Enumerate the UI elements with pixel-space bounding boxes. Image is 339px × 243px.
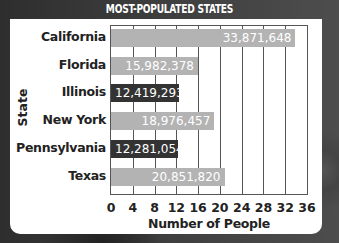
category-label: California [41,29,106,44]
bar-value-label: 15,982,378 [125,59,194,73]
x-tick-label: 20 [211,200,228,215]
x-tick-label: 16 [189,200,206,215]
x-axis-label: Number of People [110,216,308,231]
gridline [263,26,264,194]
category-label: Texas [68,168,106,183]
bar-illinois: 12,419,293 [111,84,179,102]
category-label: Illinois [62,84,106,99]
gridline [285,26,286,194]
bar-value-label: 18,976,457 [142,114,211,128]
y-axis-label: State [15,88,30,128]
bar-california: 33,871,648 [111,29,295,47]
x-tick-label: 36 [298,200,315,215]
bar-value-label: 12,419,293 [115,86,184,100]
x-tick-label: 28 [255,200,272,215]
bar-value-label: 12,281,054 [115,142,184,156]
category-label: New York [43,112,106,127]
x-tick-label: 12 [168,200,185,215]
bar-pennsylvania: 12,281,054 [111,140,178,158]
chart-title: MOST-POPULATED STATES [20,0,318,19]
category-label: Pennsylvania [16,140,106,155]
bar-value-label: 20,851,820 [152,170,221,184]
x-tick-label: 32 [277,200,294,215]
x-tick-label: 8 [150,200,159,215]
category-label: Florida [59,57,106,72]
plot-area: 33,871,64815,982,37812,419,29318,976,457… [110,25,308,195]
bar-value-label: 33,871,648 [223,31,292,45]
bar-florida: 15,982,378 [111,57,198,75]
bar-new-york: 18,976,457 [111,112,214,130]
bar-texas: 20,851,820 [111,168,225,186]
x-tick-label: 4 [128,200,137,215]
x-tick-label: 0 [107,200,116,215]
x-tick-label: 24 [233,200,250,215]
gridline [242,26,243,194]
